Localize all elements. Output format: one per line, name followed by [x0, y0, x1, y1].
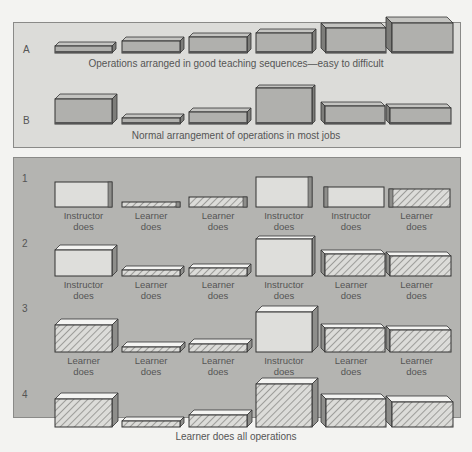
operation-box-row-2-5: [319, 248, 387, 282]
operation-box-row-4-2: [120, 415, 186, 433]
operation-box-row-3-6: [384, 324, 453, 358]
operation-box-row-b-4: [254, 83, 317, 129]
operation-box-row-4-4: [254, 376, 320, 435]
row-label-2: 2: [22, 238, 28, 249]
operation-box-row-2-1: [53, 243, 119, 283]
operation-box-row-4-5: [319, 392, 388, 434]
operation-box-row-2-6: [384, 250, 453, 282]
operation-box-row-a-2: [120, 35, 186, 59]
box-label-row-3-3: Learnerdoes: [183, 355, 253, 377]
box-label-row-3-2: Learnerdoes: [116, 355, 186, 377]
box-label-row-2-4: Instructordoes: [249, 279, 319, 301]
box-label-row-2-3: Learnerdoes: [183, 279, 253, 301]
operation-box-row-a-4: [254, 27, 318, 59]
operation-box-row-a-5: [319, 21, 388, 60]
box-label-row-2-5: Learnerdoes: [316, 279, 386, 301]
box-label-row-3-6: Learnerdoes: [382, 355, 452, 377]
operation-box-row-1-6: [384, 184, 452, 212]
operation-box-row-3-1: [53, 317, 120, 360]
operation-box-row-b-6: [384, 102, 453, 130]
box-label-row-1-2: Learnerdoes: [116, 210, 186, 232]
operation-box-row-1-1: [53, 177, 117, 212]
box-label-row-2-2: Learnerdoes: [116, 279, 186, 301]
operation-box-row-b-2: [120, 112, 186, 130]
box-label-row-1-5: Instructordoes: [316, 210, 386, 232]
operation-box-row-1-3: [187, 192, 252, 212]
operation-box-row-3-5: [319, 322, 387, 358]
caption-row-b: Normal arrangement of operations in most…: [13, 130, 459, 141]
box-label-row-1-4: Instructordoes: [249, 210, 319, 232]
operation-box-row-4-6: [384, 394, 455, 435]
operation-box-row-b-5: [319, 100, 387, 130]
operation-box-row-4-3: [187, 408, 254, 434]
operation-box-row-a-6: [384, 15, 455, 61]
box-label-row-2-1: Instructordoes: [49, 279, 119, 301]
operation-box-row-3-4: [254, 304, 320, 360]
operation-box-row-a-1: [53, 40, 118, 59]
row-label-4: 4: [22, 389, 28, 400]
row-label-3: 3: [22, 303, 28, 314]
box-label-row-1-1: Instructordoes: [49, 210, 119, 232]
operation-box-row-b-3: [187, 106, 253, 130]
operation-box-row-1-5: [319, 182, 386, 212]
box-label-row-3-1: Learnerdoes: [49, 355, 119, 377]
row-label-b: B: [23, 115, 30, 126]
operation-box-row-2-4: [254, 234, 317, 281]
box-label-row-1-3: Learnerdoes: [183, 210, 253, 232]
operation-box-row-b-1: [53, 92, 119, 131]
box-label-row-3-4: Instructordoes: [249, 355, 319, 377]
box-label-row-1-6: Learnerdoes: [382, 210, 452, 232]
box-label-row-3-5: Learnerdoes: [316, 355, 386, 377]
operation-box-row-a-3: [187, 31, 253, 59]
row-label-1: 1: [22, 173, 28, 184]
box-label-row-2-6: Learnerdoes: [382, 279, 452, 301]
operation-box-row-1-4: [254, 173, 316, 211]
operation-box-row-4-1: [53, 391, 120, 435]
row-label-a: A: [23, 44, 30, 55]
